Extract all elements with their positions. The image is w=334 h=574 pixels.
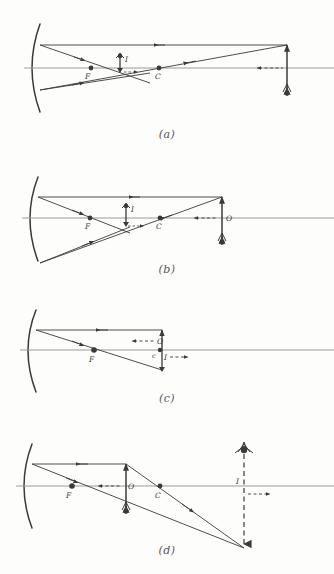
concave-mirror (28, 310, 36, 392)
focus-point-a (89, 66, 94, 71)
ray-diagram-panel-a: F C I (a) (0, 0, 334, 150)
ray-reflected-direction-marker-a (74, 57, 83, 60)
caption-c: (c) (0, 392, 334, 405)
object-base-dot (284, 90, 289, 95)
ray-diagram-c-svg: O F c I (0, 288, 334, 400)
caption-d: (d) (0, 544, 334, 557)
image-top-dot-b (124, 204, 128, 208)
object-base-dot (219, 239, 224, 244)
centre-label-d: C (155, 491, 161, 500)
concave-mirror (30, 177, 38, 261)
focus-label-a: F (84, 72, 91, 81)
ray-parallel-reflected-b (38, 197, 130, 233)
ray-diagram-a-svg: F C I (0, 0, 334, 130)
focus-label-c: F (88, 355, 95, 364)
object-label-d: O (128, 482, 134, 491)
centre-point-b (158, 216, 163, 221)
ray-parallel-reflected-marker-c (72, 341, 82, 345)
ray-c-reflected-marker-b (82, 242, 92, 246)
ray-diagram-d-svg: O F C I (0, 412, 334, 557)
ray-diagram-panel-b: O F C I (b) (0, 155, 334, 290)
focus-point-b (88, 216, 93, 221)
ray-diagram-panel-c: O F c I (c) (0, 288, 334, 413)
focus-label-b: F (84, 222, 91, 231)
centre-point-d (158, 484, 163, 489)
focus-point-d (69, 483, 75, 489)
focus-point-c (91, 347, 97, 353)
ray-parallel-reflected-marker-b (72, 210, 82, 214)
figure-sheet: F C I (a) (0, 0, 334, 574)
centre-point-a (157, 66, 162, 71)
image-label-c: I (163, 353, 168, 362)
object-base-dot-d (123, 508, 128, 513)
image-label-d: I (235, 477, 240, 486)
centre-label-c: c (152, 352, 156, 360)
ray-parallel-reflected-a (40, 45, 150, 83)
ray-diagram-b-svg: O F C I (0, 155, 334, 275)
ray-parallel-reflected-marker-d (66, 478, 76, 482)
object-label-c: O (157, 337, 163, 346)
ray-diagram-panel-d: O F C I (d) (0, 412, 334, 574)
ray-through-c-marker-d (182, 504, 192, 511)
object-label-b: O (226, 214, 232, 223)
image-label-b: I (130, 205, 135, 214)
centre-label-a: C (155, 72, 161, 81)
image-label-a: I (124, 55, 129, 64)
centre-label-b: C (156, 222, 162, 231)
centre-point-c (158, 348, 162, 352)
ray-c-reflected-a (40, 73, 150, 90)
focus-label-d: F (65, 491, 72, 500)
caption-b: (b) (0, 263, 334, 276)
image-top-dot-a (118, 54, 122, 58)
ray-parallel-reflected-d (32, 464, 244, 548)
caption-a: (a) (0, 128, 334, 141)
image-top-dot-d (241, 447, 247, 453)
